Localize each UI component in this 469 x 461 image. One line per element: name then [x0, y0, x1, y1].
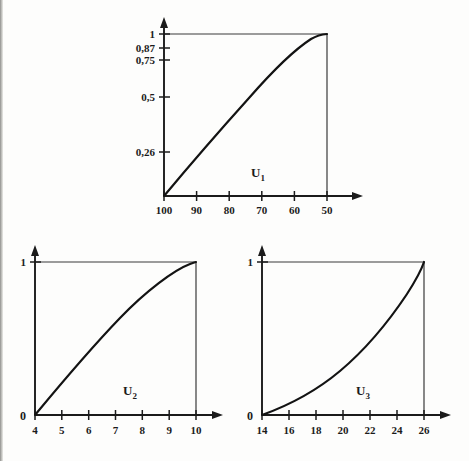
- chart-u3: 1 0 14 16 18 20 22 24 26 U3: [235, 232, 465, 447]
- scan-edge-artifact: [0, 0, 3, 461]
- u2-curve-label: U2: [123, 383, 137, 401]
- u2-y-tick-label: 1: [21, 256, 27, 268]
- u3-curve-label: U3: [356, 383, 370, 401]
- u2-y-tick-label-zero: 0: [20, 409, 26, 423]
- chart-u3-svg: 1 0 14 16 18 20 22 24 26 U3: [235, 232, 465, 447]
- u2-x-axis-arrow-icon: [212, 411, 223, 419]
- u1-y-axis-arrow-icon: [160, 17, 168, 28]
- chart-u1: 1 0,87 0,75 0,5 0,26 100 90 80 70 60 50 …: [118, 10, 368, 220]
- u1-x-tick-label: 100: [156, 204, 173, 216]
- u2-curve-path: [35, 262, 196, 415]
- u1-y-tick-label: 0,75: [136, 54, 156, 66]
- u3-y-axis-arrow-icon: [258, 245, 266, 256]
- u1-x-tick-label: 60: [289, 204, 301, 216]
- u3-x-tick-label: 26: [419, 424, 431, 436]
- u3-y-tick-label: 1: [248, 256, 254, 268]
- u3-x-tick-label: 14: [257, 424, 269, 436]
- u1-x-tick-label: 80: [224, 204, 236, 216]
- u2-x-tick-label: 8: [140, 424, 146, 436]
- u3-x-tick-label: 16: [284, 424, 296, 436]
- chart-u2: 1 0 4 5 6 7 8 9 10 U2: [8, 232, 238, 447]
- u2-x-tick-label: 6: [86, 424, 92, 436]
- u1-x-tick-label: 50: [322, 204, 334, 216]
- u2-x-tick-label: 5: [59, 424, 65, 436]
- u2-y-axis-arrow-icon: [31, 245, 39, 256]
- u1-y-tick-label: 1: [150, 28, 156, 40]
- u1-y-tick-label: 0,87: [136, 42, 156, 54]
- u3-curve-path: [262, 262, 424, 415]
- chart-u1-svg: 1 0,87 0,75 0,5 0,26 100 90 80 70 60 50 …: [118, 10, 368, 220]
- u1-curve-label: U1: [251, 165, 265, 183]
- u1-x-axis-arrow-icon: [352, 192, 363, 200]
- u2-x-tick-label: 7: [113, 424, 119, 436]
- u2-x-tick-label: 9: [166, 424, 172, 436]
- u1-x-tick-label: 70: [256, 204, 268, 216]
- u1-x-tick-label: 90: [191, 204, 203, 216]
- u1-curve-path: [164, 34, 327, 196]
- u2-x-tick-label: 10: [191, 424, 203, 436]
- u1-y-tick-label: 0,26: [136, 146, 156, 158]
- u3-x-tick-label: 24: [392, 424, 404, 436]
- figure-page: 1 0,87 0,75 0,5 0,26 100 90 80 70 60 50 …: [0, 0, 469, 461]
- u3-x-tick-label: 18: [311, 424, 323, 436]
- u3-x-tick-label: 20: [338, 424, 350, 436]
- chart-u2-svg: 1 0 4 5 6 7 8 9 10 U2: [8, 232, 238, 447]
- u3-x-axis-arrow-icon: [440, 411, 451, 419]
- u2-x-tick-label: 4: [32, 424, 38, 436]
- u3-y-tick-label-zero: 0: [247, 409, 253, 423]
- u1-y-tick-label: 0,5: [141, 91, 155, 103]
- u3-x-tick-label: 22: [365, 424, 377, 436]
